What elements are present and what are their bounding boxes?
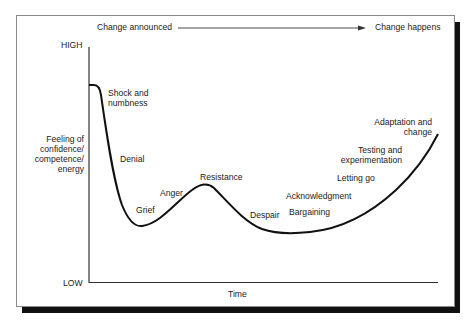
stage-resistance: Resistance: [200, 172, 243, 182]
y-title-line: competence/: [26, 154, 84, 164]
stage-shock-and-numbness: Shock and numbness: [108, 88, 149, 108]
stage-despair: Despair: [250, 210, 280, 220]
y-title-line: confidence/: [26, 144, 84, 154]
stage-grief: Grief: [136, 205, 155, 215]
y-title-line: Feeling of: [26, 134, 84, 144]
change-happens-label: Change happens: [375, 22, 440, 32]
stage-line: Shock and: [108, 88, 149, 98]
stage-bargaining: Bargaining: [289, 207, 330, 217]
stage-line: experimentation: [332, 155, 402, 165]
arrow-head-icon: [358, 26, 366, 31]
stage-anger: Anger: [160, 188, 183, 198]
y-high-label: HIGH: [61, 40, 82, 50]
stage-line: change: [365, 127, 432, 137]
stage-testing-and-experimentation: Testing and experimentation: [332, 145, 402, 165]
stage-line: Adaptation and: [365, 117, 432, 127]
stage-letting-go: Letting go: [337, 173, 375, 183]
change-announced-label: Change announced: [97, 22, 172, 32]
stage-adaptation-and-change: Adaptation and change: [365, 117, 432, 137]
y-low-label: LOW: [63, 278, 83, 288]
y-title-line: energy: [26, 164, 84, 174]
stage-acknowledgment: Acknowledgment: [286, 191, 351, 201]
stage-line: Testing and: [332, 145, 402, 155]
x-axis-title: Time: [228, 289, 247, 299]
y-axis-title: Feeling of confidence/ competence/ energ…: [26, 134, 84, 174]
stage-line: numbness: [108, 98, 149, 108]
stage-denial: Denial: [120, 154, 144, 164]
